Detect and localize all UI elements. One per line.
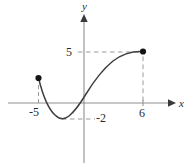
graph-figure: y x 5 6 -5 -2: [0, 0, 188, 168]
tick-label-y-5: 5: [66, 46, 72, 58]
graph-canvas: [0, 0, 188, 168]
y-axis-label: y: [82, 1, 87, 12]
tick-label-x-6: 6: [139, 107, 145, 119]
x-axis-label: x: [179, 98, 184, 109]
function-curve: [39, 51, 144, 118]
tick-label-y-neg2: -2: [96, 112, 106, 124]
endpoint-dot-left: [35, 75, 41, 81]
tick-label-x-neg5: -5: [29, 106, 39, 118]
y-axis: [80, 14, 87, 163]
endpoint-dot-right: [140, 48, 146, 54]
